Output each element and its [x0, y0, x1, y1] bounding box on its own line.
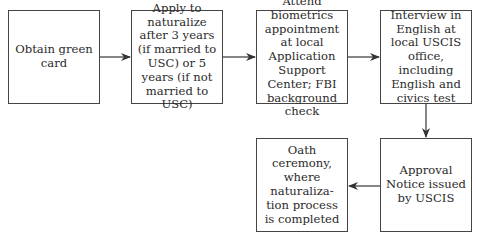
- step-approval-notice: Approval Notice issued by USCIS: [380, 138, 472, 232]
- step-label: Approval Notice issued by USCIS: [384, 164, 468, 205]
- step-biometrics-appointment: Attend biometrics appointment at local A…: [256, 10, 348, 104]
- step-oath-ceremony: Oath ceremony, where naturaliza-tion pro…: [256, 138, 348, 232]
- step-label: Oath ceremony, where naturaliza-tion pro…: [260, 144, 344, 227]
- step-label: Obtain green card: [12, 43, 96, 71]
- step-label: Interview in English at local USCIS offi…: [384, 9, 468, 106]
- step-obtain-green-card: Obtain green card: [8, 10, 100, 104]
- step-label: Apply to naturalize after 3 years (if ma…: [135, 2, 219, 112]
- step-interview: Interview in English at local USCIS offi…: [380, 10, 472, 104]
- step-apply-to-naturalize: Apply to naturalize after 3 years (if ma…: [131, 10, 223, 104]
- step-label: Attend biometrics appointment at local A…: [260, 0, 344, 119]
